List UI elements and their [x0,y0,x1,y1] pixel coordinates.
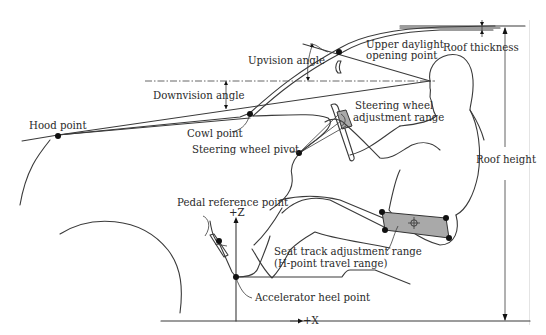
front-fascia [20,140,50,205]
arrow-down-icon [480,22,484,26]
label-hood-point: Hood point [29,120,86,132]
seat-track-adjustment-range [382,212,449,238]
pedal-reference-point-marker [216,238,222,244]
label-roof-height: Roof height [476,154,536,166]
upper-daylight-opening-point-marker [336,49,342,55]
label-upper-daylight-2: opening point [366,50,437,62]
shoe-outline [236,236,270,277]
seat-corner-marker [382,227,388,233]
arrow-up-icon [224,81,228,85]
hood-point-marker [55,133,61,139]
label-steering-adjust-2: adjustment range [353,112,444,124]
label-upper-daylight-1: Upper daylight [366,39,444,51]
wheel-arch [60,221,181,313]
steering-column-line-2 [299,121,341,153]
rearview-mirror [336,61,341,73]
vehicle-package-diagram: Roof thickness Upper daylight opening po… [0,0,546,335]
arrow-down-icon [306,77,310,81]
accelerator-heel-point-marker [233,274,239,280]
label-steering-adjust-1: Steering wheel [355,100,433,112]
label-upvision-angle: Upvision angle [248,55,325,67]
pedal-reference-leader [203,216,209,236]
driver-upper-arm [350,126,400,155]
label-roof-thickness: Roof thickness [443,42,519,54]
cowl-point-marker [247,111,253,117]
seat-corner-marker [379,209,385,215]
arrow-down-icon [224,105,228,109]
label-accelerator-heel-point: Accelerator heel point [255,292,370,304]
label-seat-track-1: Seat track adjustment range [274,246,422,258]
label-downvision-angle: Downvision angle [153,90,244,102]
label-seat-track-2: (H-point travel range) [274,258,387,270]
arrow-up-icon [503,27,508,34]
heel-point-leader [236,278,252,298]
seat-corner-marker [446,235,452,241]
arrow-up-icon [310,43,314,47]
arrow-up-icon [480,30,484,34]
label-plus-z: +Z [229,207,245,219]
label-steering-wheel-pivot: Steering wheel pivot [192,144,299,156]
driver-shin-front [254,208,282,245]
label-plus-x: +X [303,315,319,327]
label-cowl-point: Cowl point [187,128,243,140]
seat-corner-marker [443,215,449,221]
arrow-down-icon [503,314,508,321]
